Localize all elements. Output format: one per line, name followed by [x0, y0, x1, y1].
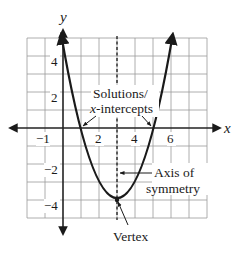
vertex-label: Vertex: [113, 229, 148, 244]
parabola-diagram: −1 2 4 6 4 2 −2 −4 y x Solutions/ x-inte…: [0, 0, 239, 253]
tick-x-neg1: −1: [36, 131, 50, 146]
solutions-pointer-left: [83, 116, 96, 126]
solutions-label-line1: Solutions/: [93, 86, 148, 101]
axis-of-symmetry-label-line2: symmetry: [146, 181, 200, 196]
vertex-pointer: [118, 202, 128, 225]
tick-y-neg2: −2: [44, 162, 58, 177]
tick-y-2: 2: [51, 90, 58, 105]
axis-of-symmetry-label-line1: Axis of: [154, 165, 195, 180]
solutions-pointer-right: [142, 116, 151, 126]
solutions-label-line2: x-intercepts: [89, 101, 153, 116]
tick-y-4: 4: [51, 54, 58, 69]
tick-x-4: 4: [131, 131, 138, 146]
tick-y-neg4: −4: [44, 198, 58, 213]
x-axis-label: x: [223, 120, 231, 136]
tick-x-6: 6: [167, 131, 174, 146]
y-axis-label: y: [58, 9, 67, 25]
graph-canvas: −1 2 4 6 4 2 −2 −4 y x Solutions/ x-inte…: [0, 0, 239, 253]
vertex-point: [115, 198, 119, 202]
tick-x-2: 2: [95, 131, 102, 146]
